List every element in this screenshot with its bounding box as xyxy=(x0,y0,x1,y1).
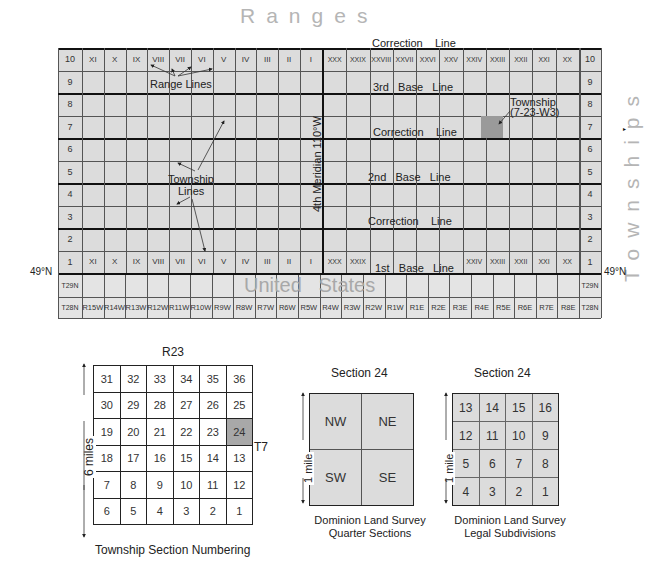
dimension-arrows-icon xyxy=(0,0,652,579)
